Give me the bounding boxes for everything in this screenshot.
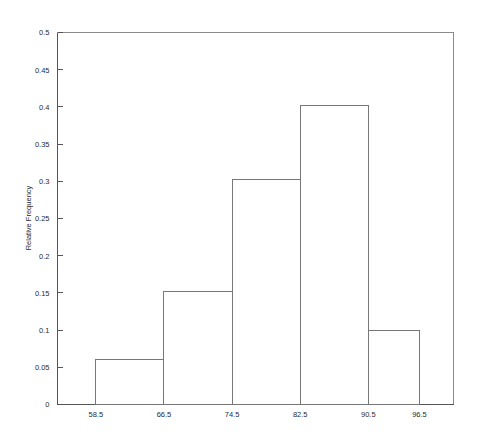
- y-tick-label: 0: [45, 400, 49, 409]
- y-tick-label: 0.3: [39, 177, 49, 186]
- y-tick-label: 0.05: [35, 363, 50, 372]
- x-tick-label: 74.5: [225, 410, 240, 419]
- histogram-figure: 00.050.10.150.20.250.30.350.40.450.5 58.…: [0, 0, 479, 437]
- y-tick-label: 0.5: [39, 28, 49, 37]
- y-tick-label: 0.1: [39, 326, 49, 335]
- y-tick-label: 0.25: [35, 214, 50, 223]
- y-tick-label: 0.15: [35, 289, 50, 298]
- chart-canvas: 00.050.10.150.20.250.30.350.40.450.5 58.…: [0, 0, 479, 437]
- x-tick-label: 58.5: [89, 410, 104, 419]
- x-tick-label: 66.5: [157, 410, 172, 419]
- figure-background: [0, 0, 479, 437]
- y-tick-label: 0.45: [35, 66, 50, 75]
- y-tick-label: 0.4: [39, 103, 49, 112]
- y-tick-label: 0.2: [39, 252, 49, 261]
- y-tick-label: 0.35: [35, 140, 50, 149]
- x-tick-label: 82.5: [293, 410, 308, 419]
- x-tick-label: 90.5: [361, 410, 376, 419]
- x-tick-label: 96.5: [412, 410, 427, 419]
- y-axis-title: Relative Frequency: [24, 185, 33, 250]
